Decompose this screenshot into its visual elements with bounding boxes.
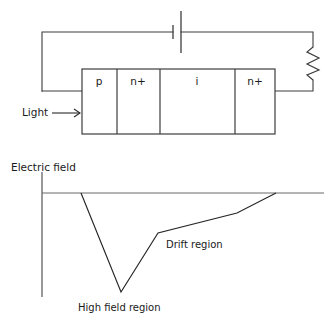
layer-label-n-plus-left: n+ xyxy=(130,75,145,87)
light-annotation: Light xyxy=(22,106,80,118)
layer-label-i: i xyxy=(196,75,199,87)
figure-root: p n+ i n+ Light Electric field High fiel… xyxy=(0,0,330,326)
light-arrow-icon xyxy=(52,109,80,117)
wire-top-right xyxy=(181,32,313,47)
resistor-symbol xyxy=(307,47,319,80)
layer-label-p: p xyxy=(96,75,103,87)
resistor-zigzag xyxy=(307,47,319,80)
battery-symbol xyxy=(173,11,181,53)
device-outline xyxy=(82,69,275,134)
pin-photodiode-body: p n+ i n+ xyxy=(82,69,275,134)
light-label: Light xyxy=(22,106,48,118)
pin-photodiode-figure: p n+ i n+ Light Electric field High fiel… xyxy=(0,0,330,326)
electric-field-plot: Electric field High field region Drift r… xyxy=(11,161,324,313)
wire-right-lead xyxy=(275,80,313,91)
high-field-region-label: High field region xyxy=(78,302,161,313)
drift-region-label: Drift region xyxy=(166,239,223,250)
layer-label-n-plus-right: n+ xyxy=(247,75,262,87)
y-axis-label: Electric field xyxy=(11,161,76,173)
